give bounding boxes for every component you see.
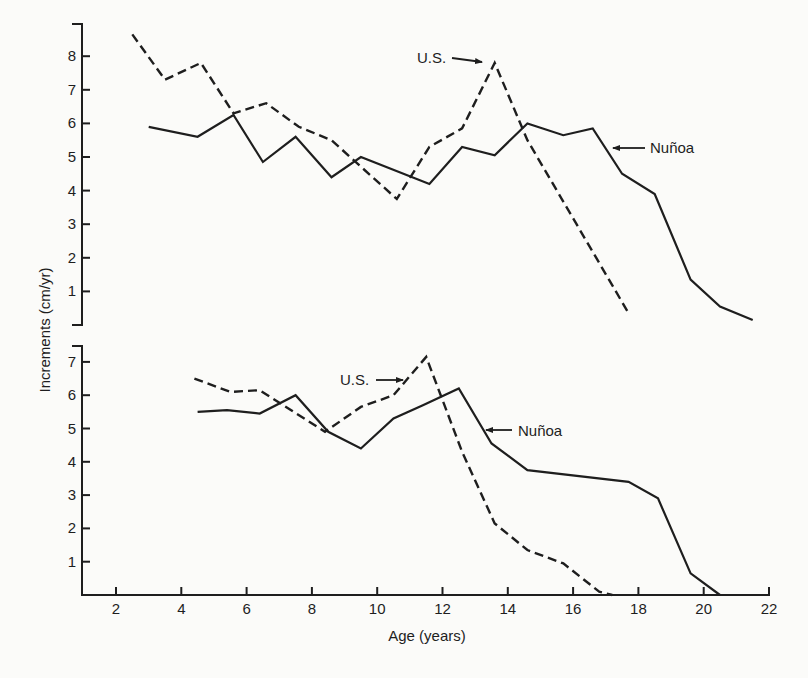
- x-tick-label: 16: [565, 600, 582, 617]
- y-axis-title: Increments (cm/yr): [36, 267, 53, 392]
- y-tick-label: 5: [68, 420, 76, 437]
- y-tick-label: 5: [68, 148, 76, 165]
- top-us-label: U.S.: [417, 49, 446, 66]
- y-tick-label: 4: [68, 453, 76, 470]
- y-tick-label: 4: [68, 182, 76, 199]
- x-tick-label: 8: [308, 600, 316, 617]
- bottom-nunoa-line: [198, 389, 720, 596]
- y-tick-label: 7: [68, 81, 76, 98]
- bottom-axes: [72, 346, 770, 595]
- top-nunoa-label: Nuñoa: [650, 139, 695, 156]
- x-axis-ticks: 246810121416182022: [112, 587, 778, 617]
- top-y-ticks: 12345678: [68, 47, 90, 299]
- bottom-us-line: [194, 357, 612, 595]
- bottom-y-ticks: 1234567: [68, 353, 90, 570]
- y-tick-label: 2: [68, 519, 76, 536]
- x-tick-label: 22: [761, 600, 778, 617]
- y-tick-label: 1: [68, 553, 76, 570]
- top-us-arrow: [452, 58, 482, 62]
- x-axis-title: Age (years): [388, 627, 466, 644]
- x-tick-label: 10: [369, 600, 386, 617]
- x-tick-label: 4: [177, 600, 185, 617]
- top-panel: 12345678 U.S. Nuñoa: [68, 24, 753, 325]
- bottom-nunoa-label: Nuñoa: [518, 422, 563, 439]
- y-tick-label: 6: [68, 386, 76, 403]
- y-tick-label: 7: [68, 353, 76, 370]
- x-tick-label: 6: [242, 600, 250, 617]
- top-us-line: [132, 34, 628, 313]
- x-tick-label: 12: [434, 600, 451, 617]
- y-tick-label: 3: [68, 215, 76, 232]
- growth-increment-chart: Increments (cm/yr) 12345678 U.S. Nuñoa 1…: [0, 0, 808, 678]
- top-y-axis: [72, 24, 82, 325]
- bottom-us-label: U.S.: [340, 371, 369, 388]
- x-tick-label: 18: [630, 600, 647, 617]
- x-tick-label: 20: [695, 600, 712, 617]
- x-tick-label: 14: [499, 600, 516, 617]
- bottom-panel: 1234567 246810121416182022 U.S. Nuñoa: [68, 346, 778, 617]
- x-tick-label: 2: [112, 600, 120, 617]
- y-tick-label: 6: [68, 114, 76, 131]
- y-tick-label: 2: [68, 249, 76, 266]
- y-tick-label: 8: [68, 47, 76, 64]
- y-tick-label: 3: [68, 486, 76, 503]
- y-tick-label: 1: [68, 282, 76, 299]
